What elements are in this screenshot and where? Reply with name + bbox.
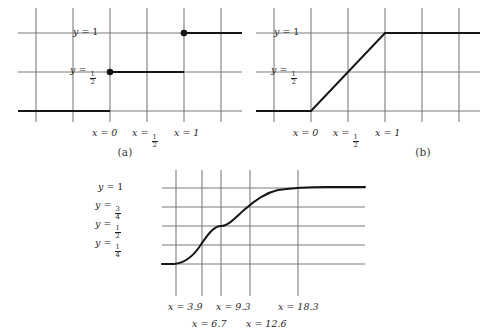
panel-c-xlabel-39: x = 3.9 <box>168 302 202 312</box>
panel-b-xlabel-1: x = 1 <box>375 128 400 138</box>
panel-b: y = 1 y = 12 x = 0 x = 12 x = 1 (b) <box>243 0 486 132</box>
panel-b-xlabel-half: x = 12 <box>333 128 359 149</box>
panel-c: y = 1 y = 34 y = 12 y = 14 x = 3.9 x = 9… <box>140 168 380 334</box>
panel-a-caption: (a) <box>100 146 150 158</box>
panel-b-vertical-gridlines <box>274 8 459 122</box>
panel-b-ylabel-1: y = 1 <box>274 27 299 37</box>
panel-a-ylabel-1: y = 1 <box>73 27 98 37</box>
panel-b-ylabel-half: y = 12 <box>271 65 297 86</box>
panel-a-xlabel-0: x = 0 <box>92 128 117 138</box>
panel-c-plot <box>140 168 380 298</box>
panel-b-caption: (b) <box>398 146 448 158</box>
panel-c-xlabel-67: x = 6.7 <box>192 319 226 329</box>
panel-c-ylabel-1: y = 1 <box>98 182 123 192</box>
panel-a-plot <box>0 0 250 132</box>
panel-a-ylabel-half: y = 12 <box>70 65 96 86</box>
panel-c-horizontal-gridlines <box>162 188 365 264</box>
panel-b-xlabel-0: x = 0 <box>293 128 318 138</box>
figure-root: y = 1 y = 12 x = 0 x = 12 x = 1 (a) <box>0 0 486 334</box>
panel-c-xlabel-93: x = 9.3 <box>216 302 250 312</box>
panel-c-ylabel-quarter: y = 14 <box>95 238 121 259</box>
panel-c-xlabel-126: x = 12.6 <box>246 319 287 329</box>
panel-a-vertical-gridlines <box>36 8 221 122</box>
panel-a-xlabel-1: x = 1 <box>174 128 199 138</box>
panel-c-xlabel-183: x = 18.3 <box>278 302 319 312</box>
panel-a: y = 1 y = 12 x = 0 x = 12 x = 1 (a) <box>0 0 250 132</box>
